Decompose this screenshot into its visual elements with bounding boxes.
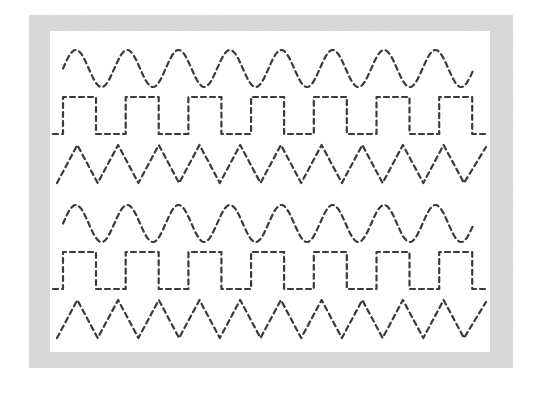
tracing-worksheet	[0, 0, 538, 395]
